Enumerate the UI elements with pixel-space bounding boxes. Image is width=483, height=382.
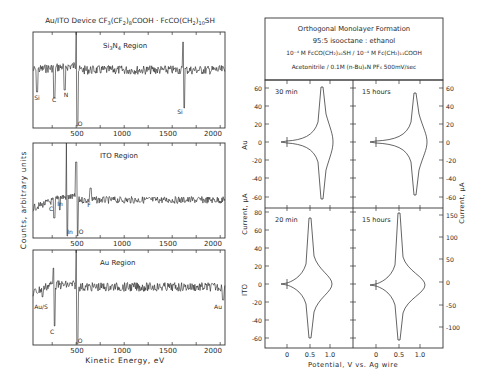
svg-text:-60: -60 xyxy=(252,194,262,201)
svg-text:O: O xyxy=(78,120,83,127)
svg-text:1500: 1500 xyxy=(159,240,177,248)
svg-text:10⁻⁴ M FcCO(CH₂)₁₀SH / 10⁻⁴ M: 10⁻⁴ M FcCO(CH₂)₁₀SH / 10⁻⁴ M Fc(CH₂)₁₁C… xyxy=(286,50,422,56)
cv-x-tick-labels-right: 0 0.5 1.0 xyxy=(374,351,425,359)
svg-text:0: 0 xyxy=(374,351,378,359)
svg-text:1500: 1500 xyxy=(159,347,177,355)
svg-text:1500: 1500 xyxy=(159,130,177,138)
svg-text:-60: -60 xyxy=(446,194,456,201)
svg-text:80: 80 xyxy=(254,209,262,216)
left-x-axis-label: Kinetic Energy, eV xyxy=(85,356,165,365)
svg-text:1000: 1000 xyxy=(113,240,131,248)
svg-text:40: 40 xyxy=(254,245,262,252)
svg-text:2000: 2000 xyxy=(204,130,222,138)
svg-text:20: 20 xyxy=(254,121,262,128)
cv-tick-marks xyxy=(265,80,443,348)
svg-text:30 min: 30 min xyxy=(275,88,298,96)
svg-text:Si: Si xyxy=(34,94,40,101)
svg-text:-20: -20 xyxy=(252,299,262,306)
si3n4-peak-annotations: Si C N O Si xyxy=(34,91,183,127)
cv-panel-labels: 30 min 15 hours 20 min 15 hours xyxy=(275,88,391,224)
svg-text:150: 150 xyxy=(446,212,458,219)
svg-text:500: 500 xyxy=(70,130,83,138)
svg-text:C: C xyxy=(52,96,56,103)
svg-text:60: 60 xyxy=(254,227,262,234)
svg-text:15 hours: 15 hours xyxy=(362,216,391,224)
svg-text:1000: 1000 xyxy=(113,130,131,138)
svg-text:C: C xyxy=(50,328,54,335)
svg-text:-20: -20 xyxy=(252,157,262,164)
svg-text:95:5 isooctane : ethanol: 95:5 isooctane : ethanol xyxy=(313,37,396,45)
svg-text:0: 0 xyxy=(285,351,289,359)
svg-text:C: C xyxy=(49,205,53,212)
si3n4-x-tick-labels: 500 1000 1500 2000 xyxy=(70,130,222,138)
svg-text:0: 0 xyxy=(446,279,450,286)
figure-canvas: Au/ITO Device CF3(CF2)8COOH · FcCO(CH2)1… xyxy=(0,0,483,382)
svg-text:40: 40 xyxy=(446,103,454,110)
cv-right-top-y-labels: 60 40 20 0 -20 -40 -60 xyxy=(446,85,456,201)
svg-text:Acetonitrile / 0.1M (n-Bu)₄N P: Acetonitrile / 0.1M (n-Bu)₄N PF₆ 500mV/s… xyxy=(292,64,417,70)
svg-text:15 hours: 15 hours xyxy=(362,88,391,96)
svg-text:20: 20 xyxy=(254,263,262,270)
svg-text:2000: 2000 xyxy=(204,240,222,248)
svg-text:Au/S: Au/S xyxy=(34,303,48,310)
svg-text:500: 500 xyxy=(70,240,83,248)
svg-text:60: 60 xyxy=(254,85,262,92)
cv-trace-ito-20min xyxy=(281,218,332,338)
svg-text:-40: -40 xyxy=(252,175,262,182)
svg-text:20: 20 xyxy=(446,121,454,128)
cv-trace-ito-15hours xyxy=(370,213,425,340)
svg-text:40: 40 xyxy=(254,103,262,110)
svg-text:-40: -40 xyxy=(252,317,262,324)
svg-text:Au: Au xyxy=(214,303,222,310)
cv-header-text: Orthogonal Monolayer Formation 95:5 isoo… xyxy=(286,25,422,70)
svg-text:-20: -20 xyxy=(446,157,456,164)
cv-right-y-axis-label: Current, μA xyxy=(458,182,466,224)
left-figure-title: Au/ITO Device CF3(CF2)8COOH · FcCO(CH2)1… xyxy=(45,16,215,26)
ito-x-tick-labels: 500 1000 1500 2000 xyxy=(70,240,222,248)
si3n4-region-label: Si3N4 Region xyxy=(103,42,147,51)
svg-text:O: O xyxy=(78,337,83,344)
svg-text:500: 500 xyxy=(70,347,83,355)
cv-grid-frame xyxy=(265,80,443,348)
cv-left-y-axis-label: Current, μA xyxy=(241,193,249,235)
svg-text:N: N xyxy=(64,91,69,98)
svg-text:0: 0 xyxy=(258,139,262,146)
svg-text:0: 0 xyxy=(446,139,450,146)
svg-text:Orthogonal Monolayer Formation: Orthogonal Monolayer Formation xyxy=(298,25,410,33)
svg-text:1.0: 1.0 xyxy=(325,351,335,359)
svg-text:Si: Si xyxy=(177,108,183,115)
left-tick-marks xyxy=(52,32,220,345)
cv-trace-au-15hours xyxy=(370,93,427,195)
svg-text:1000: 1000 xyxy=(113,347,131,355)
cv-left-top-y-labels: 60 40 20 0 -20 -40 -60 xyxy=(252,85,262,201)
svg-text:-40: -40 xyxy=(446,175,456,182)
svg-text:F: F xyxy=(87,201,91,208)
cv-trace-au-30min xyxy=(281,87,333,199)
row-label-au: Au xyxy=(241,140,249,149)
svg-text:0.5: 0.5 xyxy=(305,351,315,359)
svg-text:1.0: 1.0 xyxy=(415,351,425,359)
svg-text:60: 60 xyxy=(446,85,454,92)
svg-text:-100: -100 xyxy=(446,324,460,331)
au-peak-annotations: Au/S C O Au xyxy=(34,303,222,344)
svg-text:50: 50 xyxy=(446,256,454,263)
au-region-label: Au Region xyxy=(100,259,135,267)
svg-text:20 min: 20 min xyxy=(275,216,298,224)
ito-region-label: ITO Region xyxy=(100,152,138,160)
svg-text:0.5: 0.5 xyxy=(394,351,404,359)
left-y-axis-label: Counts, arbitrary units xyxy=(19,151,28,249)
row-label-ito: ITO xyxy=(241,284,249,296)
svg-text:-50: -50 xyxy=(446,302,456,309)
svg-text:O: O xyxy=(79,228,84,235)
au-x-tick-labels: 500 1000 1500 2000 xyxy=(70,347,222,355)
cv-right-bottom-y-labels: 150 100 50 0 -50 -100 xyxy=(446,212,460,331)
svg-text:0: 0 xyxy=(258,281,262,288)
cv-left-bottom-y-labels: 80 60 40 20 0 -20 -40 -60 xyxy=(252,209,262,342)
cv-x-tick-labels-left: 0 0.5 1.0 xyxy=(285,351,335,359)
cv-x-axis-label: Potential, V vs. Ag wire xyxy=(308,361,398,369)
svg-text:2000: 2000 xyxy=(204,347,222,355)
svg-text:In: In xyxy=(67,228,73,235)
svg-text:In: In xyxy=(57,200,63,207)
svg-text:-60: -60 xyxy=(252,335,262,342)
svg-text:100: 100 xyxy=(446,234,458,241)
